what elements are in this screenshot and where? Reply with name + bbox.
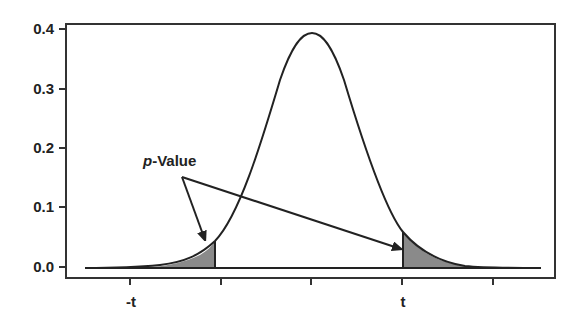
density-curve	[85, 33, 541, 268]
y-tick-label: 0.2	[33, 139, 54, 156]
pvalue-chart: 0.4 0.3 0.2 0.1 0.0 -t t p-Value	[0, 0, 578, 319]
x-tick-label-t: t	[401, 293, 406, 310]
y-tick-label: 0.0	[33, 258, 54, 275]
y-tick-label: 0.1	[33, 198, 54, 215]
y-axis	[59, 29, 66, 267]
y-tick-label: 0.4	[33, 20, 55, 37]
x-tick-label-neg-t: -t	[126, 293, 136, 310]
arrow-to-left-tail	[182, 177, 205, 240]
x-axis	[130, 278, 493, 285]
arrow-to-right-tail	[182, 177, 401, 249]
right-tail-shade	[403, 232, 480, 267]
left-tail-shade	[150, 241, 215, 267]
y-tick-label: 0.3	[33, 80, 54, 97]
pvalue-label: p-Value	[142, 152, 196, 169]
plot-frame	[66, 24, 555, 278]
